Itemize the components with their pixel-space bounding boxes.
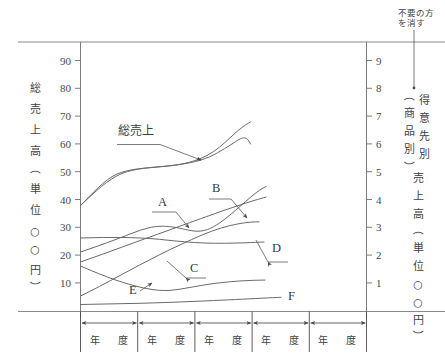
y-tick-label-right: 6 bbox=[376, 138, 382, 150]
note-annotation: 不要の方 を消す bbox=[398, 8, 434, 89]
y-tick-label-right: 4 bbox=[376, 194, 382, 206]
y-axis-title-right-tail-char: 上 bbox=[413, 190, 424, 203]
series-line-E bbox=[81, 266, 266, 291]
note-line-1: 不要の方 bbox=[398, 8, 434, 18]
y-tick-label-right: 5 bbox=[376, 166, 382, 178]
annotation-leader-D bbox=[256, 240, 268, 262]
y-axis-title-right-tail-char: ○ bbox=[413, 278, 423, 291]
y-axis-title-left-char: 高 bbox=[30, 144, 41, 158]
annotation-B: B bbox=[209, 181, 247, 218]
y-axis-title-right-alt-char: 商 bbox=[404, 106, 415, 120]
y-axis-title-right-main-char: 先 bbox=[419, 130, 430, 143]
y-tick-label-left: 60 bbox=[60, 138, 72, 150]
annotation-E: E bbox=[129, 283, 152, 297]
y-tick-label-right: 7 bbox=[376, 110, 382, 122]
series-line-total-sales-b bbox=[81, 122, 251, 206]
y-axis-right: 9 8 7 6 5 4 3 2 1 bbox=[366, 55, 382, 289]
annotation-F: F bbox=[288, 289, 295, 303]
chart-figure: 90 80 70 60 50 40 30 20 10 9 8 7 bbox=[0, 0, 445, 363]
y-axis-title-right-main-char: 得 bbox=[419, 94, 430, 107]
y-axis-title-right-main-char: 意 bbox=[419, 111, 430, 125]
annotation-total-sales: 総売上 bbox=[117, 123, 201, 160]
x-period-label-year: 年 bbox=[147, 334, 157, 346]
annotation-label-D: D bbox=[272, 241, 281, 255]
y-axis-title-left-char: （ bbox=[28, 163, 41, 174]
y-tick-label-left: 20 bbox=[60, 249, 72, 261]
y-tick-label-left: 40 bbox=[60, 194, 72, 206]
y-tick-label-right: 1 bbox=[376, 277, 382, 289]
y-axis-title-left-char: 上 bbox=[30, 124, 41, 137]
y-axis-title-right-main-char: 別 bbox=[419, 148, 430, 161]
y-axis-title-right-tail-char: 円 bbox=[413, 314, 424, 327]
x-period-label-degree: 度 bbox=[346, 334, 356, 346]
y-axis-title-right-alt-char: 品 bbox=[404, 125, 415, 138]
y-tick-label-left: 90 bbox=[60, 55, 72, 67]
series-curves bbox=[81, 122, 282, 305]
y-axis-title-left-char: ） bbox=[28, 281, 41, 292]
y-tick-label-left: 50 bbox=[60, 166, 72, 178]
x-axis-labels: 年 度 年 度 年 度 年 度 年 度 bbox=[90, 334, 356, 346]
y-axis-title-left: 総 売 上 高 （ 単 位 ○ ○ 円 ） bbox=[28, 81, 41, 292]
y-tick-label-left: 10 bbox=[60, 277, 72, 289]
annotation-leader-C bbox=[167, 261, 186, 278]
series-line-F bbox=[81, 297, 282, 304]
x-period-label-degree: 度 bbox=[118, 334, 128, 346]
annotation-A: A bbox=[152, 195, 189, 228]
y-axis-title-right-tail-char: ） bbox=[411, 330, 424, 341]
y-axis-title-right-alt-char: （ bbox=[402, 90, 415, 101]
y-axis-title-right-tail-char: （ bbox=[411, 224, 424, 235]
y-axis-title-left-char: 売 bbox=[30, 103, 41, 116]
series-line-D bbox=[81, 222, 260, 296]
y-tick-label-left: 30 bbox=[60, 221, 72, 233]
x-period-label-year: 年 bbox=[204, 334, 214, 346]
x-period-label-year: 年 bbox=[90, 334, 100, 346]
note-line-2: を消す bbox=[398, 18, 425, 28]
y-axis-left: 90 80 70 60 50 40 30 20 10 bbox=[60, 55, 81, 289]
annotation-label-A: A bbox=[158, 195, 167, 209]
y-axis-title-right-tail-char: ○ bbox=[413, 296, 423, 309]
y-axis-title-right-tail-char: 売 bbox=[413, 172, 424, 185]
x-period-label-degree: 度 bbox=[289, 334, 299, 346]
annotation-C: C bbox=[167, 261, 206, 278]
y-tick-label-right: 8 bbox=[376, 82, 382, 94]
x-period-label-year: 年 bbox=[261, 334, 271, 346]
annotation-label-total-sales: 総売上 bbox=[118, 123, 154, 138]
y-tick-label-right: 2 bbox=[376, 249, 382, 261]
y-axis-title-right-alt-char: 別 bbox=[404, 143, 415, 156]
y-axis-title-left-char: 総 bbox=[30, 81, 41, 95]
y-axis-title-left-char: 円 bbox=[30, 264, 41, 277]
y-axis-title-left-char: ○ bbox=[30, 243, 40, 256]
annotation-leader-total-sales bbox=[160, 145, 201, 161]
y-axis-title-right-tail-char: 高 bbox=[413, 207, 424, 221]
annotation-label-E: E bbox=[129, 283, 137, 297]
note-leader-dot bbox=[413, 87, 416, 90]
annotation-leader-E bbox=[140, 283, 152, 291]
y-tick-label-left: 70 bbox=[60, 110, 72, 122]
y-axis-title-right-alt-char: ） bbox=[402, 161, 415, 172]
y-axis-title-left-char: 単 bbox=[30, 182, 41, 196]
y-tick-label-right: 9 bbox=[376, 55, 382, 67]
annotation-label-C: C bbox=[190, 261, 198, 275]
series-line-B bbox=[81, 197, 267, 262]
y-axis-title-left-char: 位 bbox=[30, 203, 41, 217]
y-axis-title-right-tail-char: 位 bbox=[413, 259, 424, 273]
annotation-label-F: F bbox=[288, 289, 295, 303]
series-line-A bbox=[81, 187, 267, 253]
y-tick-label-left: 80 bbox=[60, 82, 72, 94]
y-axis-title-right: 得 意 先 別 （ 商 品 別 ） 売 上 高 （ 単 位 ○ ○ 円 ） bbox=[402, 90, 430, 341]
y-tick-label-right: 3 bbox=[376, 221, 382, 233]
x-period-label-year: 年 bbox=[318, 334, 328, 346]
y-axis-title-right-tail-char: 単 bbox=[413, 241, 424, 255]
y-axis-title-left-char: ○ bbox=[30, 225, 40, 238]
x-period-label-degree: 度 bbox=[232, 334, 242, 346]
annotation-D: D bbox=[256, 240, 288, 262]
x-period-label-degree: 度 bbox=[175, 334, 185, 346]
annotation-label-B: B bbox=[212, 181, 220, 195]
